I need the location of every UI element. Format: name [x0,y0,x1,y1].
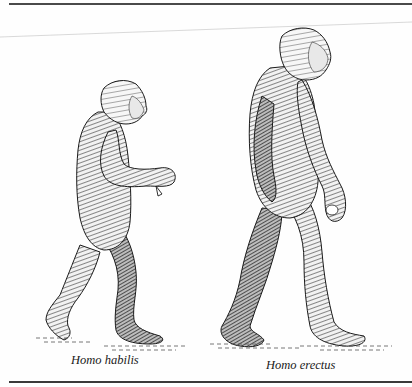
homo-habilis-figure [36,81,186,350]
caption-homo-erectus: Homo erectus [266,358,335,373]
document-page: Homo habilis Homo erectus [0,0,412,387]
hominin-illustration [0,0,412,387]
homo-erectus-figure [210,28,392,350]
bottom-rule [9,381,412,383]
caption-homo-habilis: Homo habilis [71,353,139,368]
faint-page-line [0,22,412,37]
